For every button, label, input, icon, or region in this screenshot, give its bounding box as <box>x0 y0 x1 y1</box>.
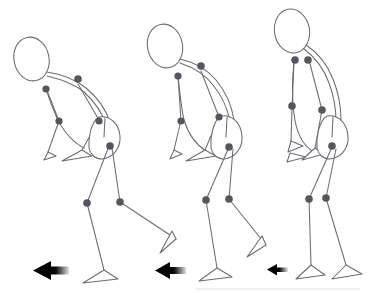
direction-arrow-3 <box>267 264 288 276</box>
pose-3-far-upper-arm <box>309 60 322 110</box>
arrow-3-glyph <box>267 264 288 276</box>
pose-2-joint-elbow-far <box>215 113 222 120</box>
pose-1-near-foot <box>83 270 118 283</box>
arrow-2-glyph <box>155 262 186 279</box>
pose-3-far-foot <box>332 265 362 279</box>
pose-3-forearm <box>291 108 292 141</box>
pose-1-far-hand <box>62 150 92 161</box>
pose-2-forearm <box>174 120 181 150</box>
pose-2-joint-knee-far <box>225 195 233 203</box>
pose-1-upper-arm <box>46 88 59 121</box>
pose-1-near-shank <box>87 203 104 270</box>
pose-2-back-inner <box>180 63 230 122</box>
pose-3-near-foot <box>296 265 325 279</box>
pose-2-joint-shoulder-far <box>197 62 205 70</box>
pose-3-joint-elbow-far <box>318 106 326 114</box>
pose-1-joint-elbow-far <box>95 117 102 124</box>
pose-1-hand <box>44 152 56 160</box>
pose-3-figure <box>271 6 362 279</box>
pose-3-joint-elbow-near <box>288 102 296 110</box>
pose-1-joint-knee-near <box>83 199 91 207</box>
pose-2-far-hand <box>186 150 216 161</box>
direction-arrow-2 <box>155 262 186 279</box>
pose-2-joint-hip <box>225 143 233 151</box>
pose-3-joint-hip <box>328 142 336 150</box>
pose-2-back-outer <box>180 59 234 120</box>
pose-3-near-shank <box>309 199 311 265</box>
pose-3-hand-lower <box>287 153 306 162</box>
pose-1-forearm <box>48 121 59 152</box>
pose-2-torso-front <box>178 77 206 151</box>
pose-2-joint-knee-near <box>202 196 210 204</box>
pose-1-head <box>10 34 53 84</box>
pose-1-joint-shoulder-near <box>42 85 49 92</box>
pose-1-far-shank <box>120 202 176 239</box>
pose-2-joint-elbow-near <box>177 117 184 124</box>
pose-1-joint-elbow-near <box>55 117 62 124</box>
pose-3-joint-knee-far <box>322 194 330 202</box>
pose-1-joint-shoulder-far <box>74 75 82 83</box>
pose-3-joint-knee-near <box>305 195 313 203</box>
pose-2-joint-shoulder-near <box>174 72 181 79</box>
pose-3-joint-shoulder-near <box>291 56 299 64</box>
pose-1-joint-hip <box>106 142 114 150</box>
pose-2-figure <box>143 21 266 281</box>
direction-arrow-1 <box>33 261 69 280</box>
arrow-1-glyph <box>33 261 69 280</box>
pose-3-hand <box>288 141 303 152</box>
pose-1-figure <box>10 34 176 283</box>
gait-sequence-illustration <box>0 0 373 293</box>
pose-1-torso-front <box>46 89 84 148</box>
pose-2-hand <box>170 150 182 159</box>
pose-1-far-upper-arm <box>78 84 99 120</box>
pose-2-near-foot <box>199 268 232 281</box>
pose-1-far-thigh <box>112 148 120 202</box>
pose-2-far-upper-arm <box>201 71 219 117</box>
pose-1-joint-knee-far <box>116 198 124 206</box>
pose-2-near-shank <box>206 200 217 268</box>
gait-figure-stage: Three-pose stooped gait sequence with di… <box>0 0 373 293</box>
pose-2-far-foot <box>247 236 266 257</box>
pose-3-head <box>271 6 313 55</box>
pose-3-joint-shoulder-far <box>304 56 312 64</box>
pose-3-far-shank <box>326 198 346 265</box>
